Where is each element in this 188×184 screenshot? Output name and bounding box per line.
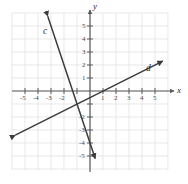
x-tick-label-3: 3 [127,95,131,102]
x-tick-label-neg5: -5 [20,95,26,102]
y-tick-label-neg4: -4 [79,140,85,147]
y-tick-label-neg3: -3 [79,127,85,134]
x-tick-label-1: 1 [101,95,105,102]
y-tick-label-neg2: -2 [79,114,85,121]
line-label-c: c [43,27,47,37]
x-tick-label-4: 4 [140,95,144,102]
x-tick-label-neg2: -2 [59,95,65,102]
y-tick-label-4: 4 [82,36,86,43]
y-axis-label: y [93,2,97,11]
y-tick-label-1: 1 [82,75,86,82]
y-tick-label-neg5: -5 [79,153,85,160]
x-axis-label: x [177,86,181,95]
line-label-d: d [146,64,151,74]
y-tick-label-5: 5 [82,23,86,30]
graph-canvas [0,0,188,184]
x-tick-label-5: 5 [153,95,157,102]
line-c [48,16,95,158]
coordinate-graph-figure: -5 -4 -3 -2 1 2 3 4 5 5 4 3 2 1 -2 -3 -4… [0,0,188,184]
x-tick-label-neg4: -4 [33,95,39,102]
y-tick-label-3: 3 [82,49,86,56]
x-tick-label-2: 2 [114,95,118,102]
y-tick-label-2: 2 [82,62,86,69]
x-tick-label-neg3: -3 [46,95,52,102]
